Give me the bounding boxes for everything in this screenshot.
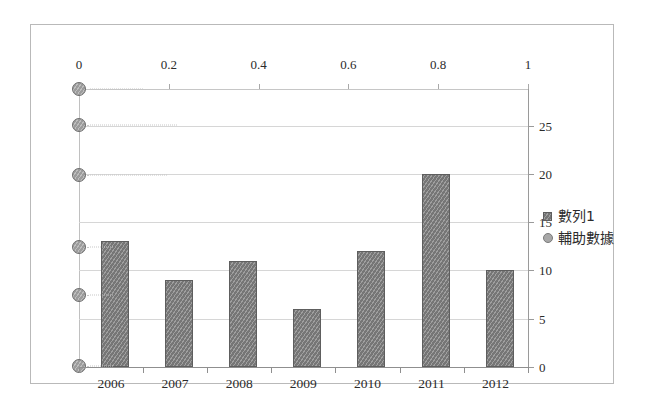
marker-stub — [87, 247, 113, 248]
bar-2006[interactable] — [101, 241, 129, 367]
right-axis-tick — [528, 174, 534, 175]
right-axis-line — [528, 89, 529, 367]
plot-area — [79, 89, 528, 367]
category-label-2007: 2007 — [162, 377, 189, 391]
category-tick — [271, 367, 272, 373]
bar-2007[interactable] — [165, 280, 193, 367]
category-label-2012: 2012 — [482, 377, 509, 391]
category-tick — [79, 367, 80, 373]
gridline-15 — [79, 222, 528, 223]
gridline-25 — [79, 126, 528, 127]
top-axis-label: 1 — [525, 58, 532, 71]
top-axis-label: 0 — [76, 58, 83, 71]
helper-marker-2[interactable] — [72, 118, 86, 132]
right-axis-label: 10 — [539, 264, 552, 277]
category-label-2009: 2009 — [290, 377, 317, 391]
category-tick — [528, 367, 529, 373]
top-axis-label: 0.4 — [250, 58, 266, 71]
chart-frame: 0 0.2 0.4 0.6 0.8 1 — [30, 24, 614, 384]
helper-marker-4[interactable] — [72, 240, 86, 254]
gridline-10 — [79, 270, 528, 271]
legend-label-helper: 輔助數據 — [558, 231, 614, 245]
top-axis-label: 0.2 — [161, 58, 177, 71]
category-tick — [400, 367, 401, 373]
bottom-axis-line — [79, 367, 528, 368]
marker-stub — [87, 295, 113, 296]
chart-legend: 數列1 輔助數據 — [543, 205, 638, 249]
right-axis-tick — [528, 270, 534, 271]
legend-item-helper[interactable]: 輔助數據 — [543, 227, 638, 249]
right-axis-tick — [528, 319, 534, 320]
marker-stub — [87, 125, 177, 126]
bar-2011[interactable] — [422, 174, 450, 367]
marker-stub — [87, 89, 143, 90]
legend-item-series1[interactable]: 數列1 — [543, 205, 638, 227]
category-label-2010: 2010 — [354, 377, 381, 391]
bar-2010[interactable] — [357, 251, 385, 367]
category-label-2011: 2011 — [418, 377, 445, 391]
top-axis-label: 0.6 — [340, 58, 356, 71]
category-label-2008: 2008 — [226, 377, 253, 391]
right-axis-tick — [528, 367, 534, 368]
category-tick — [335, 367, 336, 373]
category-tick — [207, 367, 208, 373]
helper-marker-5[interactable] — [72, 288, 86, 302]
helper-marker-1[interactable] — [72, 82, 86, 96]
category-tick — [143, 367, 144, 373]
right-axis-tick — [528, 222, 534, 223]
legend-square-icon — [543, 212, 552, 221]
bar-2008[interactable] — [229, 261, 257, 367]
category-label-2006: 2006 — [98, 377, 125, 391]
bar-2012[interactable] — [486, 270, 514, 367]
right-axis-label: 20 — [539, 167, 552, 180]
helper-marker-3[interactable] — [72, 168, 86, 182]
right-axis-label: 5 — [539, 312, 546, 325]
legend-label-series1: 數列1 — [558, 209, 595, 223]
category-tick — [464, 367, 465, 373]
top-axis-label: 0.8 — [430, 58, 446, 71]
right-axis-label: 0 — [539, 361, 546, 374]
right-axis-label: 25 — [539, 119, 552, 132]
marker-stub — [87, 175, 167, 176]
right-axis-tick — [528, 126, 534, 127]
legend-circle-icon — [543, 233, 553, 243]
bar-2009[interactable] — [293, 309, 321, 367]
